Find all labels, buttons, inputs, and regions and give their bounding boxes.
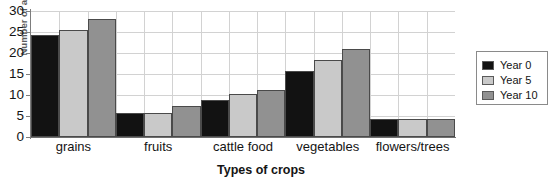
bar [285, 71, 313, 137]
legend-item: Year 0 [482, 58, 546, 72]
y-axis-tick-label: 30 [0, 5, 24, 17]
legend-color-swatch [482, 91, 494, 100]
legend-label: Year 0 [500, 58, 531, 72]
y-axis-tick-label: 10 [0, 89, 24, 101]
gridline-horizontal [31, 11, 455, 12]
bar [314, 60, 342, 137]
bar [201, 100, 229, 137]
y-axis-tick-label: 15 [0, 68, 24, 80]
bar [88, 19, 116, 137]
legend-color-swatch [482, 76, 494, 85]
bar [229, 94, 257, 137]
bar [59, 30, 87, 137]
bar [427, 119, 455, 137]
bar [398, 119, 426, 137]
legend-label: Year 10 [500, 88, 538, 102]
legend-item: Year 10 [482, 88, 546, 102]
legend-color-swatch [482, 61, 494, 70]
y-axis-tick-label: 25 [0, 26, 24, 38]
bar [370, 119, 398, 137]
bar [342, 49, 370, 137]
legend-item: Year 5 [482, 73, 546, 87]
bar [144, 113, 172, 137]
bar [31, 35, 59, 137]
y-axis-tick-label: 5 [0, 110, 24, 122]
bar-chart-figure: Crop Production Number of acres 05101520… [0, 0, 559, 182]
x-axis-category-label: flowers/trees [353, 139, 473, 154]
plot-area [31, 11, 455, 137]
chart-legend: Year 0Year 5Year 10 [476, 51, 548, 105]
bar [116, 113, 144, 137]
legend-label: Year 5 [500, 73, 531, 87]
x-axis-line [31, 137, 456, 138]
bar [257, 90, 285, 137]
x-axis-label: Types of crops [131, 163, 391, 177]
bar [172, 106, 200, 138]
y-axis-tick-label: 20 [0, 47, 24, 59]
